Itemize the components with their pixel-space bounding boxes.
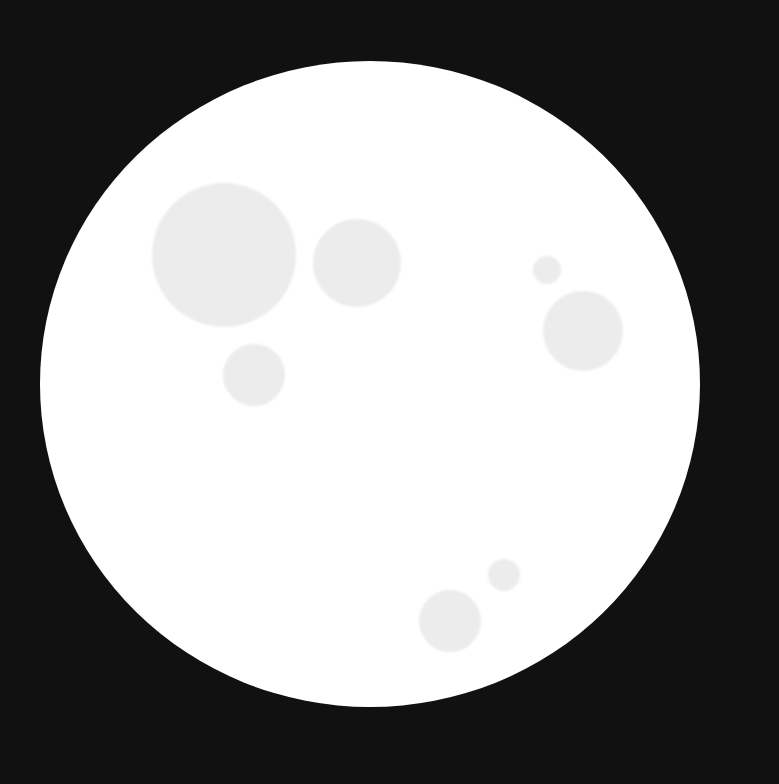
image-stage — [0, 0, 779, 784]
gray-spot — [488, 559, 520, 591]
white-disc — [40, 61, 700, 707]
gray-spot — [152, 183, 296, 327]
gray-spot — [223, 344, 285, 406]
gray-spot — [543, 291, 623, 371]
gray-spot — [313, 219, 401, 307]
gray-spot — [419, 590, 481, 652]
gray-spot — [533, 256, 561, 284]
disc-image — [0, 0, 779, 784]
